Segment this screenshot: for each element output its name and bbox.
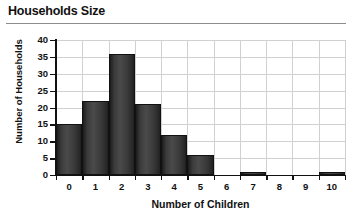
chart-figure: Households Size 0510152025303540 0123456… bbox=[0, 0, 352, 220]
x-tick-mark bbox=[319, 176, 320, 180]
y-axis-line bbox=[55, 39, 57, 176]
y-tick-label: 5 bbox=[28, 153, 48, 163]
x-tick-mark bbox=[135, 176, 136, 180]
y-axis-tick-labels: 0510152025303540 bbox=[26, 0, 48, 220]
chart-header: Households Size bbox=[0, 0, 352, 28]
bar bbox=[109, 54, 135, 176]
bar bbox=[56, 124, 82, 175]
x-tick-mark bbox=[161, 176, 162, 180]
y-tick-label: 0 bbox=[28, 170, 48, 180]
x-tick-mark bbox=[187, 176, 188, 180]
x-tick-label: 6 bbox=[215, 182, 239, 192]
y-tick-label: 40 bbox=[28, 35, 48, 45]
plot-area bbox=[56, 40, 345, 175]
x-tick-label: 1 bbox=[83, 182, 107, 192]
y-tick-mark bbox=[50, 141, 55, 142]
y-tick-mark bbox=[50, 124, 55, 125]
y-tick-label: 15 bbox=[28, 119, 48, 129]
y-tick-mark bbox=[50, 40, 55, 41]
x-tick-label: 5 bbox=[189, 182, 213, 192]
x-tick-label: 4 bbox=[162, 182, 186, 192]
x-tick-mark bbox=[56, 176, 57, 180]
x-tick-mark bbox=[214, 176, 215, 180]
x-tick-label: 10 bbox=[320, 182, 344, 192]
bar bbox=[82, 101, 108, 175]
x-tick-mark bbox=[82, 176, 83, 180]
x-tick-mark bbox=[109, 176, 110, 180]
bar bbox=[187, 155, 213, 175]
y-tick-mark bbox=[50, 158, 55, 159]
y-tick-mark bbox=[50, 74, 55, 75]
y-tick-label: 35 bbox=[28, 52, 48, 62]
y-tick-label: 10 bbox=[28, 136, 48, 146]
x-tick-label: 2 bbox=[110, 182, 134, 192]
x-tick-mark bbox=[345, 176, 346, 180]
x-axis-title: Number of Children bbox=[56, 198, 345, 210]
x-tick-label: 3 bbox=[136, 182, 160, 192]
y-tick-mark bbox=[50, 175, 55, 176]
y-tick-label: 25 bbox=[28, 86, 48, 96]
x-tick-mark bbox=[266, 176, 267, 180]
x-axis-line bbox=[55, 175, 346, 177]
y-tick-mark bbox=[50, 57, 55, 58]
bar bbox=[135, 104, 161, 175]
bar-series bbox=[56, 40, 345, 175]
y-tick-mark bbox=[50, 91, 55, 92]
bar bbox=[161, 135, 187, 176]
y-axis-title: Number of Households bbox=[13, 27, 24, 157]
x-tick-label: 8 bbox=[267, 182, 291, 192]
y-tick-mark bbox=[50, 108, 55, 109]
x-tick-mark bbox=[240, 176, 241, 180]
y-tick-label: 30 bbox=[28, 69, 48, 79]
page-title: Households Size bbox=[8, 4, 105, 18]
y-tick-label: 20 bbox=[28, 103, 48, 113]
x-tick-mark bbox=[292, 176, 293, 180]
header-divider bbox=[6, 23, 346, 24]
x-tick-label: 9 bbox=[294, 182, 318, 192]
gridline-vertical bbox=[345, 40, 346, 175]
x-tick-label: 7 bbox=[241, 182, 265, 192]
x-tick-label: 0 bbox=[57, 182, 81, 192]
